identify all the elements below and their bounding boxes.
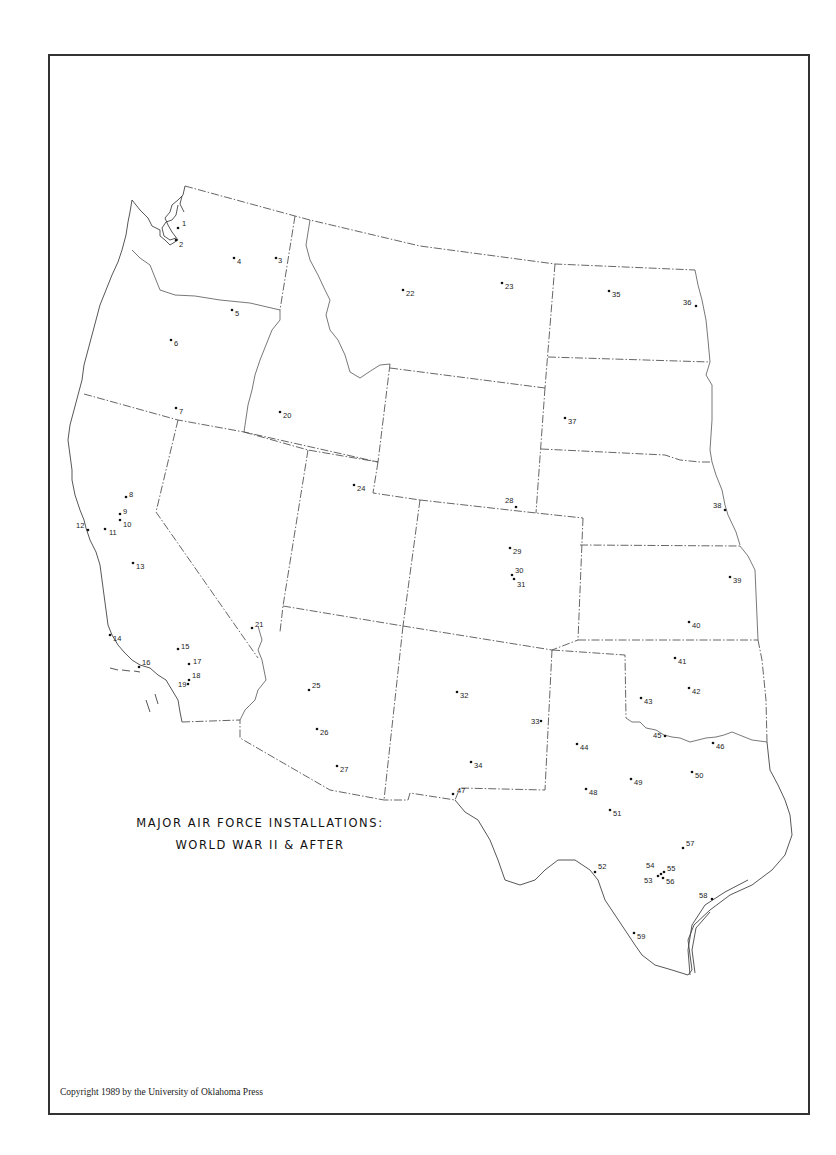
colorado-river [240, 626, 266, 720]
installation-marker-56 [662, 877, 665, 880]
installation-marker-26 [316, 728, 319, 731]
installation-marker-39 [729, 576, 732, 579]
installation-marker-37 [564, 417, 567, 420]
installation-marker-34 [470, 761, 473, 764]
installation-label-51: 51 [613, 809, 621, 818]
installation-label-34: 34 [474, 761, 482, 770]
installation-marker-2 [175, 239, 178, 242]
id-wy-border [378, 364, 390, 462]
installation-marker-53 [657, 875, 660, 878]
map-title-line-1: MAJOR AIR FORCE INSTALLATIONS: [60, 816, 460, 830]
installation-label-8: 8 [129, 490, 133, 499]
installation-label-47: 47 [457, 786, 465, 795]
installation-marker-16 [138, 666, 141, 669]
ut-co-border [403, 500, 420, 626]
installation-label-29: 29 [513, 547, 521, 556]
red-river [626, 718, 767, 742]
nm-tx-border [384, 650, 552, 800]
nd-sd-border [548, 357, 710, 362]
installation-label-30: 30 [515, 566, 523, 575]
installation-marker-44 [576, 743, 579, 746]
installation-marker-1 [177, 227, 180, 230]
mt-wy-border [390, 368, 545, 388]
installation-label-12: 12 [76, 521, 84, 530]
ok-east-border [758, 640, 767, 742]
installation-marker-31 [513, 578, 516, 581]
installation-marker-25 [308, 689, 311, 692]
installation-label-59: 59 [637, 932, 645, 941]
installation-marker-27 [336, 765, 339, 768]
installation-marker-3 [275, 257, 278, 260]
installation-label-2: 2 [179, 240, 183, 249]
installation-label-45: 45 [653, 731, 661, 740]
installation-label-40: 40 [692, 621, 700, 630]
installation-label-55: 55 [667, 864, 675, 873]
four-corners-line [283, 606, 578, 650]
installation-marker-51 [609, 809, 612, 812]
sd-ne-border [541, 449, 712, 462]
installation-marker-38 [724, 509, 727, 512]
nd-mn-border [695, 270, 710, 362]
or-id-border [244, 310, 280, 432]
installation-marker-41 [674, 657, 677, 660]
texas-outline [455, 742, 792, 975]
installation-marker-21 [251, 627, 254, 630]
installation-label-3: 3 [278, 256, 282, 265]
installation-label-9: 9 [123, 507, 127, 516]
installation-label-4: 4 [237, 257, 241, 266]
installation-label-16: 16 [142, 658, 150, 667]
installation-label-37: 37 [568, 417, 576, 426]
installation-label-39: 39 [733, 576, 741, 585]
installation-label-23: 23 [505, 282, 513, 291]
installation-marker-52 [594, 871, 597, 874]
installation-marker-8 [125, 496, 128, 499]
installation-marker-13 [132, 562, 135, 565]
installation-label-50: 50 [695, 771, 703, 780]
installation-label-15: 15 [181, 642, 189, 651]
gulf-barrier-islands [688, 880, 748, 975]
installation-marker-57 [682, 847, 685, 850]
installation-marker-15 [177, 648, 180, 651]
installation-label-7: 7 [179, 407, 183, 416]
installation-label-1: 1 [182, 219, 186, 228]
installation-label-44: 44 [580, 743, 588, 752]
copyright-notice: Copyright 1989 by the University of Okla… [60, 1087, 263, 1097]
pacific-coastline [68, 186, 185, 722]
installation-marker-50 [691, 771, 694, 774]
installation-marker-9 [119, 513, 122, 516]
installation-marker-30 [511, 574, 514, 577]
installation-label-53: 53 [644, 876, 652, 885]
installation-label-43: 43 [644, 697, 652, 706]
installation-marker-19 [187, 683, 190, 686]
ok-panhandle [552, 650, 626, 718]
installation-marker-42 [688, 687, 691, 690]
co-east-border [578, 518, 583, 640]
installation-marker-40 [688, 621, 691, 624]
installation-label-38: 38 [713, 501, 721, 510]
installation-label-18: 18 [192, 671, 200, 680]
installation-marker-59 [633, 932, 636, 935]
installation-marker-54 [660, 873, 663, 876]
installation-label-48: 48 [589, 788, 597, 797]
installation-markers: 1234567891011121314151617181920212223242… [76, 219, 741, 941]
installation-label-27: 27 [340, 765, 348, 774]
installation-label-56: 56 [666, 877, 674, 886]
installation-marker-7 [175, 407, 178, 410]
wa-id-border [280, 216, 295, 310]
installation-marker-58 [711, 898, 714, 901]
installation-label-57: 57 [686, 839, 694, 848]
installation-marker-5 [231, 309, 234, 312]
installation-marker-11 [104, 528, 107, 531]
installation-label-46: 46 [716, 742, 724, 751]
installation-marker-43 [640, 697, 643, 700]
installation-label-6: 6 [174, 339, 178, 348]
installation-marker-33 [540, 720, 543, 723]
sd-east-border [706, 362, 712, 462]
installation-label-14: 14 [113, 634, 121, 643]
installation-label-21: 21 [255, 620, 263, 629]
wy-ut-border [373, 462, 420, 500]
id-mt-border [306, 220, 390, 378]
installation-marker-46 [712, 742, 715, 745]
installation-label-25: 25 [312, 681, 320, 690]
installation-label-41: 41 [678, 657, 686, 666]
